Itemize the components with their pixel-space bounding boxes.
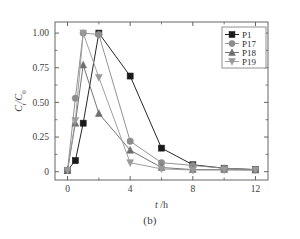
legend-marker-P17 [229,40,235,46]
y-axis-title: Ct/C0 [13,90,28,112]
x-tick-label: 4 [128,184,133,194]
y-tick-label: 0.50 [32,98,49,108]
y-tick-label: 0 [44,167,49,177]
data-point-P17 [96,31,102,37]
y-tick-label: 0.75 [32,63,49,73]
y-tick-label: 0.25 [32,132,49,142]
chart-canvas: 0481200.250.500.751.00t /hCt/C0P1P17P18P… [0,0,300,239]
figure-panel: 0481200.250.500.751.00t /hCt/C0P1P17P18P… [0,0,300,239]
x-tick-label: 8 [190,184,195,194]
data-point-P1 [72,158,78,164]
x-tick-label: 0 [65,184,70,194]
data-point-P18 [95,110,102,117]
data-point-P1 [159,145,165,151]
data-point-P17 [127,138,133,144]
data-point-P1 [80,120,86,126]
data-point-P19 [95,74,102,81]
series-line-P18 [68,65,256,170]
x-axis-title: t /h [155,199,168,210]
legend-marker-P1 [229,32,235,38]
x-tick-label: 12 [251,184,261,194]
figure-caption: (b) [0,214,300,226]
legend-label-P19: P19 [242,57,257,67]
data-point-P1 [127,73,133,79]
y-tick-label: 1.00 [32,28,49,38]
